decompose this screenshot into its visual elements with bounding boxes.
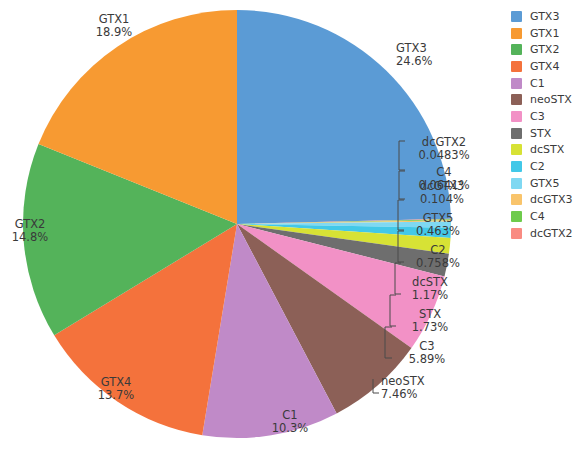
slice-label-dcstx: dcSTX1.17% [412, 275, 449, 302]
legend-item-label: GTX2 [530, 43, 559, 56]
pie-chart: GTX324.6%GTX118.9%GTX214.8%GTX413.7%C110… [0, 0, 588, 449]
legend-item-gtx4[interactable]: GTX4 [511, 58, 588, 75]
legend-swatch-icon [511, 144, 522, 155]
legend-swatch-icon [511, 161, 522, 172]
legend-item-stx[interactable]: STX [511, 125, 588, 142]
legend-item-c2[interactable]: C2 [511, 158, 588, 175]
legend-swatch-icon [511, 178, 522, 189]
legend-item-label: GTX3 [530, 10, 559, 23]
legend-item-dcstx[interactable]: dcSTX [511, 142, 588, 159]
legend-item-dcgtx3[interactable]: dcGTX3 [511, 192, 588, 209]
legend-item-label: dcGTX3 [530, 193, 572, 206]
legend-item-label: C4 [530, 210, 545, 223]
legend-item-gtx3[interactable]: GTX3 [511, 8, 588, 25]
legend-item-c3[interactable]: C3 [511, 108, 588, 125]
slice-label-neostx: neoSTX7.46% [381, 374, 425, 401]
legend-item-dcgtx2[interactable]: dcGTX2 [511, 225, 588, 242]
legend-swatch-icon [511, 228, 522, 239]
slice-label-dcgtx2: dcGTX20.0483% [418, 135, 469, 162]
legend-swatch-icon [511, 211, 522, 222]
legend-item-label: GTX1 [530, 27, 559, 40]
legend-item-label: neoSTX [530, 93, 572, 106]
legend-item-gtx2[interactable]: GTX2 [511, 41, 588, 58]
slice-label-gtx5: GTX50.463% [416, 211, 460, 238]
legend-swatch-icon [511, 11, 522, 22]
legend-item-label: STX [530, 127, 551, 140]
legend-swatch-icon [511, 78, 522, 89]
legend-item-label: C3 [530, 110, 545, 123]
legend-item-gtx5[interactable]: GTX5 [511, 175, 588, 192]
legend-swatch-icon [511, 28, 522, 39]
legend-item-label: dcSTX [530, 143, 564, 156]
legend: GTX3GTX1GTX2GTX4C1neoSTXC3STXdcSTXC2GTX5… [511, 8, 588, 242]
legend-swatch-icon [511, 44, 522, 55]
slice-label-gtx3: GTX324.6% [396, 41, 433, 68]
legend-swatch-icon [511, 94, 522, 105]
legend-item-c1[interactable]: C1 [511, 75, 588, 92]
legend-swatch-icon [511, 111, 522, 122]
pie-chart-canvas: GTX324.6%GTX118.9%GTX214.8%GTX413.7%C110… [0, 0, 588, 449]
slice-label-gtx1: GTX118.9% [96, 12, 133, 39]
slice-label-gtx2: GTX214.8% [12, 217, 49, 244]
legend-swatch-icon [511, 194, 522, 205]
legend-item-neostx[interactable]: neoSTX [511, 91, 588, 108]
legend-item-label: C1 [530, 77, 545, 90]
legend-item-label: C2 [530, 160, 545, 173]
legend-item-label: GTX5 [530, 177, 559, 190]
legend-item-label: GTX4 [530, 60, 559, 73]
legend-item-c4[interactable]: C4 [511, 208, 588, 225]
legend-item-gtx1[interactable]: GTX1 [511, 25, 588, 42]
slice-label-gtx4: GTX413.7% [98, 375, 135, 402]
legend-swatch-icon [511, 61, 522, 72]
legend-swatch-icon [511, 128, 522, 139]
legend-item-label: dcGTX2 [530, 227, 572, 240]
